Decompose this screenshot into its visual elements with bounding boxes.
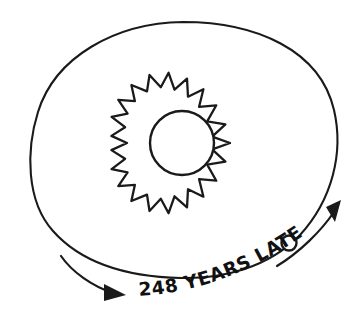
sun [111, 73, 230, 213]
sun-core [150, 111, 214, 175]
direction-arrow-left [61, 256, 126, 301]
orbit-diagram: 248 YEARS LATER [0, 0, 363, 335]
orbit-diagram-canvas: 248 YEARS LATER [0, 0, 363, 335]
